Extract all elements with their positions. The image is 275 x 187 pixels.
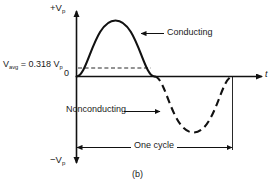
annotation-nonconducting: Nonconducting [66, 105, 126, 114]
origin-label: 0 [64, 69, 69, 78]
nonconducting-half-cycle-curve [155, 77, 233, 133]
half-wave-rectifier-waveform-plot [0, 0, 275, 187]
annotation-one-cycle: One cycle [131, 141, 177, 150]
figure-caption: (b) [0, 170, 275, 179]
axis-label-time: t [265, 70, 268, 79]
vavg-equation-label: Vavg = 0.318 Vp [3, 60, 63, 69]
waveform-figure: +Vp −Vp Vavg = 0.318 Vp 0 t Conducting N… [0, 0, 275, 187]
axis-label-positive-peak: +Vp [50, 3, 65, 13]
annotation-conducting: Conducting [167, 28, 213, 37]
axis-label-negative-peak: −Vp [50, 155, 65, 165]
